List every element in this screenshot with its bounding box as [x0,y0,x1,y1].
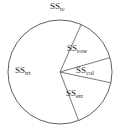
slice-label-col-base: SS [76,65,86,75]
slice-label-row-base: SS [67,43,77,53]
slice-label-err-sub: err [76,92,83,99]
slice-label-tc-sub: tc [60,5,65,12]
slice-label-col-sub: col [86,69,94,76]
slice-label-trt-sub: trt [25,69,31,76]
slice-label-err: SSerr [66,89,83,98]
slice-label-trt: SStrt [15,66,31,75]
slice-label-row-sub: row [77,47,87,54]
slice-label-tc-base: SS [50,1,60,11]
slice-label-tc: SStc [50,2,65,11]
slice-label-err-base: SS [66,88,76,98]
slice-label-trt-base: SS [15,65,25,75]
sum-of-squares-pie-chart: SStc SStrt SSrow SScol SSerr [0,0,119,131]
slice-label-row: SSrow [67,44,87,53]
slice-label-col: SScol [76,66,94,75]
